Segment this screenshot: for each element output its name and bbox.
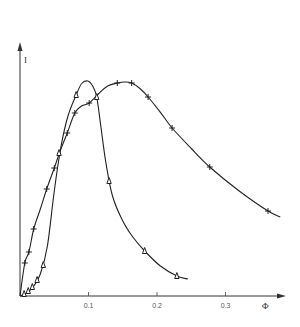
data-point-plus-1 xyxy=(26,249,32,255)
x-ticks: 0.10.20.3 xyxy=(84,292,231,309)
x-tick-label-1: 0.2 xyxy=(152,302,162,309)
data-point-triangle-10 xyxy=(175,273,179,279)
data-point-plus-9 xyxy=(129,80,135,86)
chart: I Φ 0.10.20.3 xyxy=(0,0,300,327)
data-point-triangle-2 xyxy=(30,284,34,290)
data-point-plus-5 xyxy=(64,130,70,136)
x-axis-label: Φ xyxy=(262,301,269,311)
data-point-triangle-8 xyxy=(107,178,111,184)
series-line-triangle xyxy=(20,81,188,296)
markers xyxy=(22,80,271,297)
curves xyxy=(20,81,280,296)
data-point-triangle-4 xyxy=(41,262,45,268)
data-point-plus-3 xyxy=(44,186,50,192)
series-line-plus xyxy=(20,82,280,296)
y-axis-arrow-icon xyxy=(18,42,23,51)
x-tick-label-2: 0.3 xyxy=(221,302,231,309)
data-point-triangle-1 xyxy=(26,288,30,294)
data-point-triangle-9 xyxy=(142,248,146,254)
x-axis-arrow-icon xyxy=(277,294,286,299)
data-point-plus-0 xyxy=(22,260,28,266)
axes: I Φ xyxy=(18,42,287,311)
data-point-plus-6 xyxy=(72,110,78,116)
y-axis-label: I xyxy=(24,55,27,65)
x-tick-label-0: 0.1 xyxy=(84,302,94,309)
data-point-plus-4 xyxy=(51,165,57,171)
data-point-plus-2 xyxy=(31,226,37,232)
data-point-plus-8 xyxy=(114,80,120,86)
data-point-plus-13 xyxy=(265,208,271,214)
